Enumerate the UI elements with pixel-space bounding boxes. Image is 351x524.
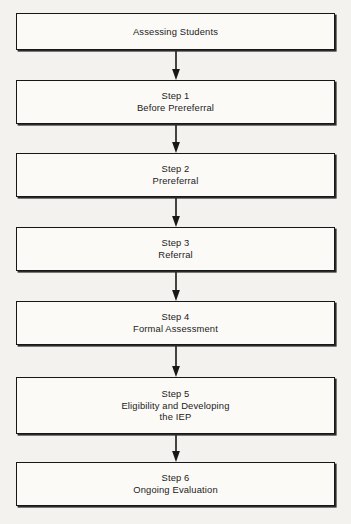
flow-node-label: Step 3 [161,237,189,249]
flow-node-label: Eligibility and Developing [121,400,229,412]
flow-node-label: Step 1 [161,90,189,102]
flow-arrow-5 [169,345,183,377]
flow-arrow-6 [169,434,183,462]
flow-node-label: the IEP [160,411,192,423]
flow-node-step-1: Step 1Before Prereferral [16,80,335,124]
flow-arrow-1 [169,50,183,80]
flow-node-label: Prereferral [153,175,199,187]
flow-node-step-6: Step 6Ongoing Evaluation [16,462,335,506]
flow-node-step-4: Step 4Formal Assessment [16,301,335,345]
flow-node-label: Step 4 [161,311,189,323]
flow-node-label: Assessing Students [133,26,218,38]
flow-arrow-3 [169,197,183,227]
flow-node-label: Formal Assessment [133,323,218,335]
flow-node-label: Ongoing Evaluation [133,484,218,496]
flow-node-label: Referral [158,249,193,261]
flow-node-label: Step 5 [161,388,189,400]
flow-arrow-2 [169,124,183,153]
flowchart-diagram: Assessing StudentsStep 1Before Prereferr… [0,0,351,524]
flow-arrow-4 [169,271,183,301]
flow-node-step-5: Step 5Eligibility and Developingthe IEP [16,377,335,434]
flow-node-label: Step 2 [161,163,189,175]
flow-node-step-2: Step 2Prereferral [16,153,335,197]
flow-node-label: Before Prereferral [137,102,214,114]
flow-node-label: Step 6 [161,472,189,484]
flow-node-step-3: Step 3Referral [16,227,335,271]
flow-node-assessing-students: Assessing Students [16,13,335,50]
